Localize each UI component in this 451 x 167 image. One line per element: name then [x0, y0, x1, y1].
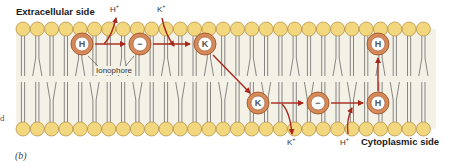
ionophore-h-inner: H — [367, 92, 389, 114]
svg-text:H: H — [375, 98, 382, 108]
k-ion-top-label: K+ — [157, 3, 166, 14]
h-ion-top-label: H+ — [110, 3, 119, 14]
cropped-text-fragment: d — [0, 113, 5, 123]
ionophore-k-inner: K — [247, 92, 269, 114]
svg-text:K: K — [202, 39, 209, 49]
svg-text:H: H — [79, 39, 86, 49]
svg-text:H: H — [375, 39, 382, 49]
ionophore-transport-diagram: H−KK−HH Extracellular side H+ K+ Ionopho… — [0, 0, 451, 167]
k-ion-bottom-label: K+ — [287, 136, 296, 147]
h-ion-bottom-label: H+ — [340, 136, 349, 147]
svg-text:−: − — [137, 39, 142, 49]
panel-label: (b) — [15, 150, 27, 161]
ionophore-h-rising: H — [367, 33, 389, 55]
cytoplasmic-side-label: Cytoplasmic side — [361, 136, 439, 147]
extracellular-side-label: Extracellular side — [16, 6, 95, 17]
inner-leaflet-heads — [16, 122, 430, 136]
ionophore-k-outer: K — [194, 33, 216, 55]
ionophore-empty-inner: − — [307, 92, 329, 114]
svg-text:K: K — [255, 98, 262, 108]
ionophore-label: Ionophore — [95, 66, 133, 75]
ionophore-empty-outer: − — [129, 33, 151, 55]
ionophore-h-outer: H — [71, 33, 93, 55]
svg-text:−: − — [315, 98, 320, 108]
